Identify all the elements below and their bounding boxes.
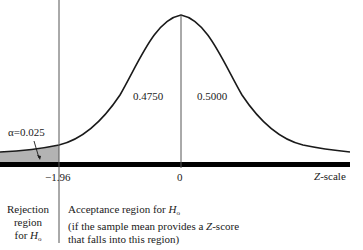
area-right-label: 0.5000 [197, 90, 227, 103]
mean-tick-label: 0 [177, 171, 183, 184]
rejection-shade [0, 145, 59, 164]
critical-value-tick-label: −1.96 [45, 171, 70, 184]
z-axis [0, 162, 350, 167]
normal-curve [0, 15, 350, 152]
area-left-label: 0.4750 [133, 90, 163, 103]
acceptance-region-label: Acceptance region for Ho (if the sample … [68, 203, 239, 246]
rejection-region-label: Rejection region for Ho [4, 203, 52, 246]
alpha-label: α=0.025 [8, 126, 45, 139]
z-scale-label: Z-scale [314, 170, 346, 183]
